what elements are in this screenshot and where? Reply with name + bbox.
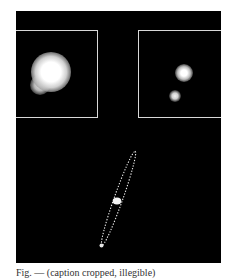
companion-star-marker bbox=[100, 244, 104, 248]
astronomy-image-figure bbox=[16, 11, 221, 263]
primary-star-marker bbox=[113, 198, 122, 205]
orbit-ellipse-overlay bbox=[16, 11, 221, 263]
figure-caption: Fig. — (caption cropped, illegible) bbox=[16, 267, 221, 279]
